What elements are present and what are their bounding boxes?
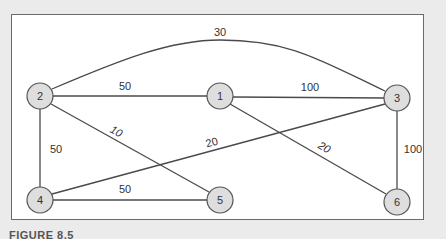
weight-4-5: 50 [119, 183, 131, 195]
node-3-label: 3 [394, 92, 400, 104]
figure-caption: FIGURE 8.5 [9, 229, 74, 239]
node-3: 3 [384, 85, 410, 111]
node-1-label: 1 [217, 90, 223, 102]
node-1: 1 [207, 83, 233, 109]
node-4-label: 4 [37, 194, 43, 206]
graph-diagram: 30 50 100 10 50 20 20 100 50 1 2 3 4 5 [0, 0, 446, 239]
weight-2-4: 50 [50, 143, 62, 155]
weight-2-3: 30 [214, 26, 226, 38]
edges [40, 40, 397, 200]
edge-4-3 [52, 104, 385, 194]
weight-1-6: 20 [315, 138, 333, 155]
node-5: 5 [207, 187, 233, 213]
node-2: 2 [27, 83, 53, 109]
edge-weights: 30 50 100 10 50 20 20 100 50 [50, 26, 422, 195]
weight-4-3: 20 [204, 135, 219, 150]
edge-2-5 [51, 104, 209, 192]
edge-1-3 [233, 97, 384, 98]
node-2-label: 2 [37, 90, 43, 102]
weight-1-3: 100 [301, 81, 319, 93]
edge-1-6 [230, 104, 386, 194]
node-6-label: 6 [394, 196, 400, 208]
node-5-label: 5 [217, 194, 223, 206]
weight-2-1: 50 [119, 80, 131, 92]
node-6: 6 [384, 189, 410, 215]
weight-3-6: 100 [404, 143, 422, 155]
node-4: 4 [27, 187, 53, 213]
